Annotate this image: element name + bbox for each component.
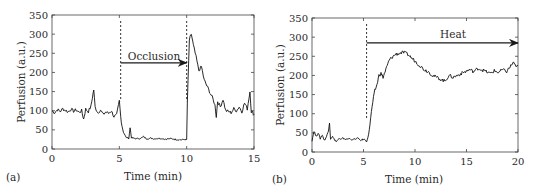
x-tick-label: 0 bbox=[309, 156, 315, 167]
x-axis-label: Time (min) bbox=[385, 173, 443, 185]
plot-frame bbox=[52, 15, 254, 149]
y-tick-label: 0 bbox=[42, 144, 48, 155]
y-axis-label: Perfusion (a.u.) bbox=[274, 44, 286, 126]
x-tick-label: 15 bbox=[460, 156, 473, 167]
annotation-label: Heat bbox=[440, 28, 467, 40]
x-axis-label: Time (min) bbox=[124, 170, 182, 182]
y-tick-label: 200 bbox=[29, 67, 48, 78]
annotation-label: Occlusion bbox=[128, 50, 181, 62]
x-tick-label: 10 bbox=[180, 153, 193, 164]
y-tick-label: 250 bbox=[29, 48, 48, 59]
y-tick-label: 100 bbox=[29, 105, 48, 116]
y-tick-label: 350 bbox=[289, 13, 308, 24]
x-tick-label: 5 bbox=[116, 153, 122, 164]
perfusion-series-line bbox=[312, 51, 518, 142]
plot-frame bbox=[312, 18, 518, 152]
x-tick-label: 15 bbox=[248, 153, 261, 164]
y-axis-label: Perfusion (a.u.) bbox=[15, 41, 27, 123]
y-tick-label: 50 bbox=[295, 127, 308, 138]
y-tick-label: 200 bbox=[289, 70, 308, 81]
y-tick-label: 50 bbox=[35, 124, 48, 135]
panel-a: 051015050100150200250300350 Perfusion (a… bbox=[6, 10, 260, 184]
y-tick-label: 250 bbox=[289, 51, 308, 62]
y-tick-label: 300 bbox=[29, 29, 48, 40]
y-tick-label: 350 bbox=[29, 10, 48, 21]
panel-label: (a) bbox=[6, 171, 20, 183]
y-tick-label: 100 bbox=[289, 108, 308, 119]
y-tick-label: 300 bbox=[289, 32, 308, 43]
y-tick-label: 150 bbox=[289, 89, 308, 100]
plot-area: 051015050100150200250300350 bbox=[29, 10, 260, 165]
y-tick-label: 0 bbox=[302, 147, 308, 158]
x-tick-label: 5 bbox=[360, 156, 366, 167]
x-tick-label: 10 bbox=[409, 156, 422, 167]
y-tick-label: 150 bbox=[29, 86, 48, 97]
figure: 051015050100150200250300350 Perfusion (a… bbox=[0, 0, 539, 192]
x-tick-label: 20 bbox=[512, 156, 525, 167]
x-tick-label: 0 bbox=[49, 153, 55, 164]
plot-area: 05101520050100150200250300350 bbox=[289, 13, 524, 168]
panel-b: 05101520050100150200250300350 Perfusion … bbox=[272, 13, 524, 186]
panel-label: (b) bbox=[272, 173, 287, 185]
